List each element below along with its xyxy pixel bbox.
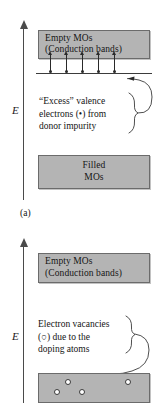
energy-axis-label-a: E <box>12 105 19 116</box>
excitation-arrow-3-a <box>82 55 83 71</box>
donor-electron-3-a <box>81 70 84 73</box>
callout-curve-b <box>114 334 149 374</box>
energy-axis-shaft-a <box>23 26 24 200</box>
callout-curve-a <box>128 79 153 113</box>
conduction-band-label-line2-b: (Conduction bands) <box>38 268 157 280</box>
electron-vacancy-4 <box>79 389 85 395</box>
electron-vacancy-1 <box>65 379 71 385</box>
donor-annotation-line2: electrons (•) from <box>39 108 106 121</box>
donor-level-line-a <box>36 73 152 74</box>
valence-band-label-line2-a: MOs <box>38 172 150 184</box>
conduction-band-label-line1-a: Empty MOs <box>38 33 157 45</box>
callout-arrowhead-a <box>128 76 135 80</box>
donor-annotation-line1: “Excess” valence <box>39 95 105 108</box>
excitation-arrow-5-a <box>114 55 115 71</box>
excitation-arrow-1-a <box>50 55 51 71</box>
curly-brace-icon-b <box>126 316 135 353</box>
valence-band-box-b <box>38 373 150 403</box>
energy-axis-label-b: E <box>12 331 19 342</box>
donor-annotation-line3: donor impurity <box>39 120 96 133</box>
excitation-arrow-2-a <box>66 55 67 71</box>
acceptor-annotation-line1: Electron vacancies <box>38 318 109 331</box>
donor-electron-1-a <box>49 70 52 73</box>
electron-vacancy-3 <box>54 389 60 395</box>
panel-p-type: E Empty MOs (Conduction bands) Electron … <box>0 232 166 403</box>
conduction-band-label-line1-b: Empty MOs <box>38 256 157 268</box>
panel-n-type: E Empty MOs (Conduction bands) “Excess” … <box>0 0 166 205</box>
acceptor-annotation-line3: doping atoms <box>38 343 89 356</box>
electron-vacancy-2 <box>125 379 131 385</box>
acceptor-annotation-line2: (○) due to the <box>38 331 90 344</box>
donor-electron-2-a <box>65 70 68 73</box>
donor-electron-5-a <box>113 70 116 73</box>
donor-electron-4-a <box>97 70 100 73</box>
curly-brace-icon-a <box>129 93 138 133</box>
excitation-arrow-4-a <box>98 55 99 71</box>
energy-axis-shaft-b <box>23 244 24 403</box>
valence-band-label-line1-a: Filled <box>38 160 150 172</box>
panel-caption-a: (a) <box>20 208 31 219</box>
